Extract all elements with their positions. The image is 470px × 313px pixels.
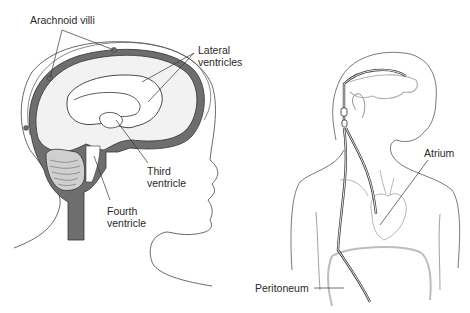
- leader-lines-right: [314, 160, 428, 288]
- label-peritoneum: Peritoneum: [255, 282, 309, 294]
- shunt-valve: [341, 108, 347, 116]
- ventricular-catheter-lumen: [344, 70, 406, 126]
- label-third-ventricle: Third ventricle: [147, 165, 186, 189]
- patient-brain: [350, 75, 417, 99]
- label-fourth-ventricle: Fourth ventricle: [107, 205, 146, 229]
- diaphragm: [328, 247, 430, 306]
- diagram-stage: Arachnoid villi Lateral ventricles Third…: [0, 0, 470, 313]
- ventricular-catheter: [344, 70, 406, 126]
- label-arachnoid-villi: Arachnoid villi: [30, 14, 95, 26]
- heart: [371, 194, 406, 240]
- label-lateral-ventricles: Lateral ventricles: [198, 44, 242, 68]
- patient-arm-outline: [316, 212, 440, 290]
- shunt-valve-reservoir: [342, 120, 347, 127]
- label-atrium: Atrium: [424, 147, 454, 159]
- peritoneal-catheter: [338, 128, 370, 302]
- patient-head-outline: [333, 52, 437, 158]
